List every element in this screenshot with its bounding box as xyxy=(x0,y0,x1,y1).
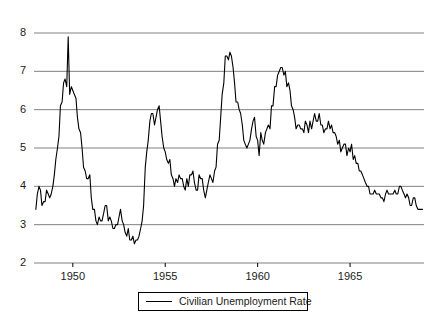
x-tick-group xyxy=(73,263,350,267)
y-tick-label-7: 7 xyxy=(10,65,26,76)
y-tick-label-3: 3 xyxy=(10,219,26,230)
series-line-civilian-unemployment-rate xyxy=(36,37,423,244)
y-tick-label-6: 6 xyxy=(10,104,26,115)
chart-legend: Civilian Unemployment Rate xyxy=(138,292,308,311)
x-tick-label-1960: 1960 xyxy=(238,271,278,282)
legend-label-civilian-unemployment-rate: Civilian Unemployment Rate xyxy=(179,296,311,307)
legend-line-swatch-icon xyxy=(146,301,172,302)
x-tick-label-1965: 1965 xyxy=(330,271,370,282)
gridline-group xyxy=(34,33,424,263)
y-tick-label-2: 2 xyxy=(10,257,26,268)
unemployment-rate-chart: 8765432 1950195519601965 Civilian Unempl… xyxy=(0,0,433,325)
y-tick-label-5: 5 xyxy=(10,142,26,153)
y-tick-label-8: 8 xyxy=(10,27,26,38)
x-tick-label-1950: 1950 xyxy=(53,271,93,282)
y-tick-label-4: 4 xyxy=(10,180,26,191)
x-tick-label-1955: 1955 xyxy=(145,271,185,282)
